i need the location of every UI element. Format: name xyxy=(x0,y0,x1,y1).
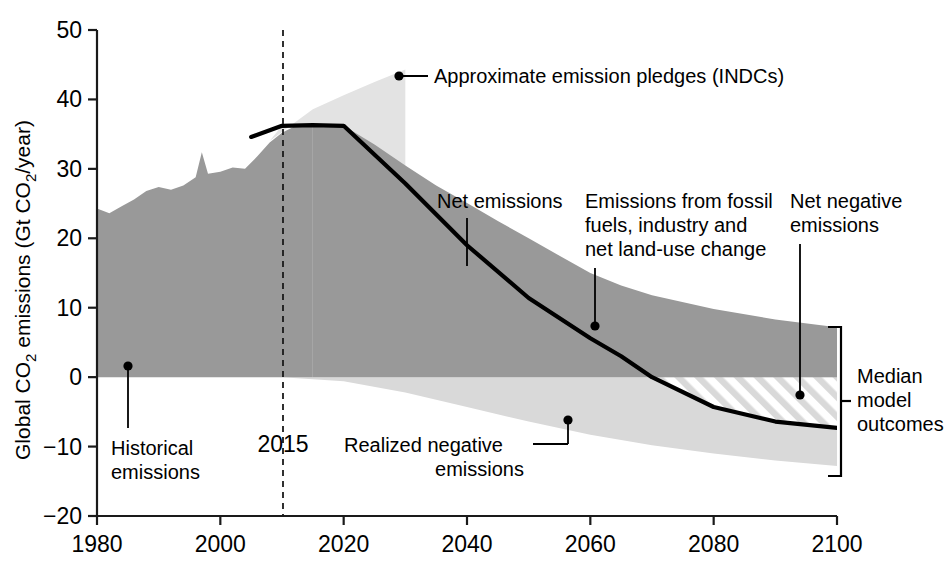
x-tick-label: 2060 xyxy=(565,531,616,557)
x-axis-ticks: 1980200020202040206020802100 xyxy=(71,516,862,557)
median-label-line1: Median xyxy=(857,365,923,387)
realized-label-line2: emissions xyxy=(435,458,524,480)
y-axis-title-pre: Global CO xyxy=(11,362,34,460)
netneg-marker-dot xyxy=(795,390,804,399)
median-label-line2: model xyxy=(857,389,911,411)
historical-emissions-area xyxy=(97,125,313,377)
y-axis-ticks: 50403020100−10−20 xyxy=(43,17,97,529)
x-tick-label: 2080 xyxy=(688,531,739,557)
y-axis-title-sub1: 2 xyxy=(22,354,39,362)
x-tick-label: 2040 xyxy=(441,531,492,557)
y-axis-title-post: /year) xyxy=(11,120,34,174)
y-tick-label: −10 xyxy=(43,434,82,460)
y-axis-title: Global CO2 emissions (Gt CO2/year) xyxy=(11,120,39,460)
y-tick-label: 40 xyxy=(56,86,82,112)
annotation-median-model: Median model outcomes xyxy=(828,327,944,476)
historical-label-line2: emissions xyxy=(111,461,200,483)
fossil-label-line2: fuels, industry and xyxy=(585,214,747,236)
net-emissions-label: Net emissions xyxy=(437,190,563,212)
annotation-realized-negative: Realized negative emissions xyxy=(344,415,573,480)
netneg-label-line1: Net negative xyxy=(790,190,902,212)
svg-text:Global CO2 emissions (Gt CO2/y: Global CO2 emissions (Gt CO2/year) xyxy=(11,120,39,460)
y-tick-label: 30 xyxy=(56,156,82,182)
co2-emissions-chart: 50403020100−10−20 1980200020202040206020… xyxy=(0,0,950,575)
annotation-indc: Approximate emission pledges (INDCs) xyxy=(394,65,784,87)
x-tick-label: 1980 xyxy=(71,531,122,557)
y-tick-label: 10 xyxy=(56,295,82,321)
y-tick-label: 50 xyxy=(56,17,82,43)
y-axis-title-sub2: 2 xyxy=(22,174,39,182)
fossil-label-line1: Emissions from fossil xyxy=(585,190,773,212)
realized-label-line1: Realized negative xyxy=(344,434,503,456)
y-tick-label: 20 xyxy=(56,225,82,251)
x-tick-label: 2100 xyxy=(811,531,862,557)
x-tick-label: 2020 xyxy=(318,531,369,557)
fossil-marker-dot xyxy=(590,321,599,330)
annotation-historical: Historical emissions xyxy=(111,361,200,483)
historical-label-line1: Historical xyxy=(111,437,193,459)
median-label-line3: outcomes xyxy=(857,413,944,435)
realized-marker-dot xyxy=(563,415,572,424)
fossil-label-line3: net land-use change xyxy=(585,238,766,260)
y-axis-title-mid: emissions (Gt CO xyxy=(11,182,34,354)
plot-areas xyxy=(97,70,837,466)
year-2015-label: 2015 xyxy=(257,431,308,457)
indc-label: Approximate emission pledges (INDCs) xyxy=(434,65,784,87)
y-tick-label: 0 xyxy=(69,364,82,390)
y-tick-label: −20 xyxy=(43,503,82,529)
chart-figure: 50403020100−10−20 1980200020202040206020… xyxy=(0,0,950,575)
netneg-label-line2: emissions xyxy=(790,214,879,236)
x-tick-label: 2000 xyxy=(195,531,246,557)
